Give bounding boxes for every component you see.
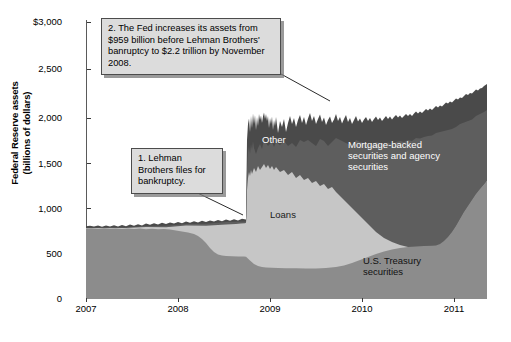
- y-tick-label-500: 500: [18, 249, 62, 259]
- y-tick-label-2000: 2,000: [18, 113, 62, 123]
- x-tick-label-2011: 2011: [431, 303, 477, 314]
- chart-figure: Federal Reserve assets (billions of doll…: [0, 0, 511, 342]
- x-tick-2009: [270, 298, 271, 302]
- series-label-treasury: U.S. Treasury securities: [363, 255, 421, 277]
- y-tick-label-2500: 2,500: [18, 64, 62, 74]
- x-tick-2007: [86, 298, 87, 302]
- series-label-mbs-line1: Mortgage-backed: [348, 139, 440, 150]
- y-tick-label-0: 0: [18, 294, 62, 304]
- series-label-loans: Loans: [270, 209, 296, 220]
- x-tick-2011: [454, 298, 455, 302]
- y-tick-label-1000: 1,000: [18, 204, 62, 214]
- x-tick-2010: [362, 298, 363, 302]
- x-tick-label-2009: 2009: [247, 303, 293, 314]
- series-label-mbs-line2: securities and agency: [348, 150, 440, 161]
- x-tick-2008: [178, 298, 179, 302]
- series-label-treasury-line1: U.S. Treasury: [363, 255, 421, 266]
- series-label-mbs: Mortgage-backed securities and agency se…: [348, 139, 440, 172]
- x-tick-label-2008: 2008: [155, 303, 201, 314]
- callout-1: 1. Lehman Brothers files for bankruptcy.: [131, 148, 223, 194]
- series-label-treasury-line2: securities: [363, 266, 421, 277]
- y-tick-label-3000: $3,000: [18, 17, 62, 27]
- series-label-other: Other: [262, 134, 286, 145]
- y-axis-labels: 0 500 1,000 1,500 2,000 2,500 $3,000: [14, 0, 62, 342]
- x-tick-label-2010: 2010: [339, 303, 385, 314]
- y-tick-label-1500: 1,500: [18, 159, 62, 169]
- x-tick-label-2007: 2007: [63, 303, 109, 314]
- callout-2: 2. The Fed increases its assets from $95…: [101, 18, 281, 75]
- series-label-mbs-line3: securities: [348, 161, 440, 172]
